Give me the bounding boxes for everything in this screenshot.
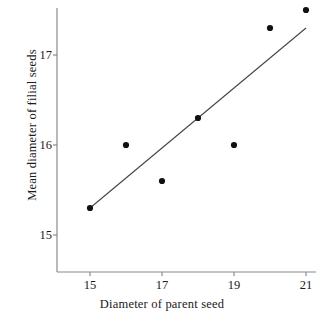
x-tick-label: 17 [156,278,169,293]
data-point [87,205,93,211]
y-axis-title: Mean diameter of filial seeds [22,5,42,245]
data-point-group [87,7,309,211]
data-point [303,7,309,13]
data-point [195,115,201,121]
data-point [123,142,129,148]
x-axis-title: Diameter of parent seed [0,297,324,312]
x-tick-label: 21 [300,278,313,293]
x-tick-label: 19 [228,278,241,293]
data-point [267,25,273,31]
x-tick-label: 15 [84,278,97,293]
data-point [231,142,237,148]
scatter-chart: 15161715171921 Diameter of parent seed M… [0,0,324,325]
data-point [159,178,165,184]
